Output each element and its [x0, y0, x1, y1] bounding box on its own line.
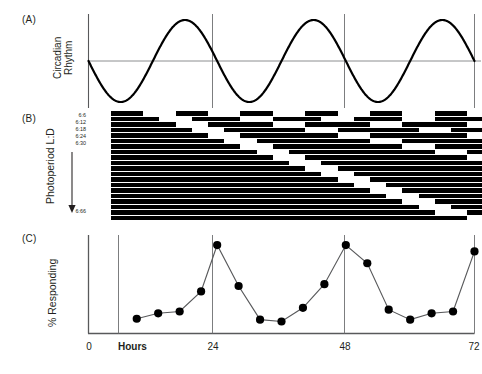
- percent-responding-point: [320, 280, 328, 288]
- percent-responding-point: [449, 307, 457, 315]
- percent-responding-point: [363, 259, 371, 267]
- percent-responding-point: [235, 282, 243, 290]
- percent-responding-point: [385, 306, 393, 314]
- x-axis-label-hours: Hours: [118, 341, 147, 352]
- x-tick-label-72: 72: [468, 341, 479, 352]
- percent-responding-point: [342, 241, 350, 249]
- percent-responding-point: [176, 307, 184, 315]
- percent-responding-point: [406, 316, 414, 324]
- percent-responding-point: [197, 287, 205, 295]
- percent-responding-point: [154, 309, 162, 317]
- percent-responding-point: [299, 304, 307, 312]
- x-tick-label-24: 24: [207, 341, 218, 352]
- percent-responding-point: [133, 315, 141, 323]
- x-tick-label-0: 0: [86, 341, 92, 352]
- percent-responding-markers: [133, 241, 479, 326]
- percent-responding-point: [277, 317, 285, 325]
- photoperiod-direction-arrow: [68, 152, 75, 213]
- percent-responding-point: [428, 309, 436, 317]
- panel-c-group: [88, 235, 479, 334]
- x-tick-label-48: 48: [339, 341, 350, 352]
- percent-responding-point: [256, 316, 264, 324]
- percent-responding-point: [213, 241, 221, 249]
- panel-a-group: [89, 14, 482, 108]
- percent-responding-point: [470, 247, 478, 255]
